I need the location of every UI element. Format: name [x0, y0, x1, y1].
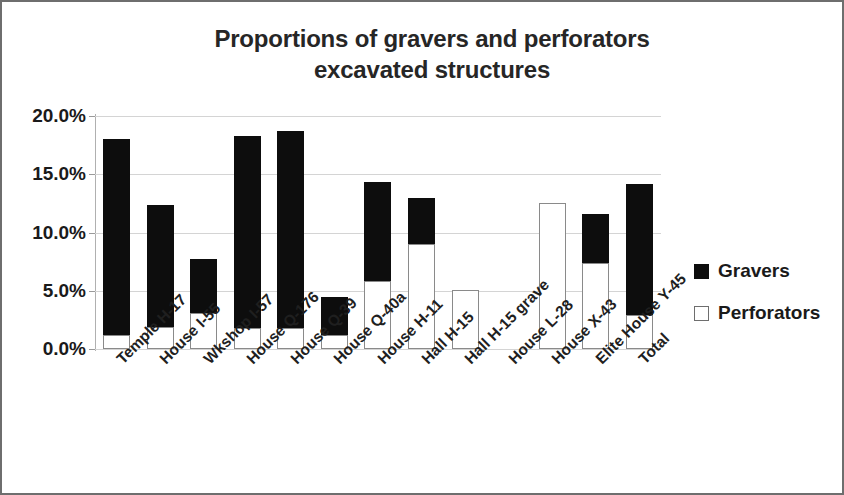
y-axis-tick-label: 10.0% — [8, 222, 86, 244]
x-axis-labels: Temple H-17House I-55Wkshop I-57House Q-… — [95, 349, 661, 489]
bar-segment-gravers[interactable] — [626, 184, 653, 316]
bar-stack[interactable] — [103, 139, 130, 349]
bar-segment-gravers[interactable] — [582, 214, 609, 263]
y-axis-tick — [89, 349, 95, 350]
legend-swatch-perforators — [694, 306, 709, 321]
bar-slot — [95, 116, 139, 349]
chart-title-line-1: Proportions of gravers and perforators — [122, 24, 742, 55]
legend-item[interactable]: Perforators — [694, 302, 820, 324]
bar-segment-gravers[interactable] — [408, 198, 435, 245]
bar-segment-gravers[interactable] — [103, 139, 130, 335]
y-axis-tick-label: 5.0% — [8, 280, 86, 302]
y-axis-tick — [89, 174, 95, 175]
chart-title: Proportions of gravers and perforators e… — [122, 24, 742, 85]
legend-label: Perforators — [718, 302, 820, 324]
y-axis-tick — [89, 116, 95, 117]
y-axis-labels: 0.0%5.0%10.0%15.0%20.0% — [2, 116, 86, 349]
y-axis-tick-label: 20.0% — [8, 105, 86, 127]
y-axis-tick-label: 15.0% — [8, 163, 86, 185]
chart-legend: GraversPerforators — [694, 260, 820, 344]
chart-container: Proportions of gravers and perforators e… — [0, 0, 844, 495]
chart-title-line-2: excavated structures — [122, 55, 742, 86]
y-axis-tick — [89, 291, 95, 292]
legend-item[interactable]: Gravers — [694, 260, 820, 282]
bar-segment-gravers[interactable] — [364, 182, 391, 281]
y-axis-tick-label: 0.0% — [8, 338, 86, 360]
y-axis-tick — [89, 233, 95, 234]
legend-label: Gravers — [718, 260, 790, 282]
legend-swatch-gravers — [694, 264, 709, 279]
